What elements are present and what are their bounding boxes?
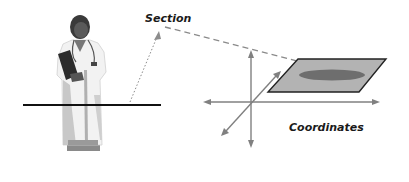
diagram-canvas bbox=[0, 0, 409, 182]
y-axis-arrow-up-icon bbox=[248, 50, 254, 58]
x-axis-arrow-left-icon bbox=[203, 99, 211, 105]
section-plane bbox=[268, 59, 386, 92]
dotted-pointer-line bbox=[130, 37, 157, 102]
cross-section-ellipse bbox=[299, 70, 365, 81]
y-axis-arrow-down-icon bbox=[248, 140, 254, 148]
section-label: Section bbox=[145, 12, 191, 25]
x-axis-arrow-right-icon bbox=[372, 99, 380, 105]
section-coordinates-diagram: Section Coordinates bbox=[0, 0, 409, 182]
dotted-arrow-head-icon bbox=[154, 31, 161, 40]
projection-dashed-line bbox=[165, 27, 297, 61]
doctor-figure-icon bbox=[57, 15, 106, 151]
coordinates-label: Coordinates bbox=[289, 121, 364, 134]
